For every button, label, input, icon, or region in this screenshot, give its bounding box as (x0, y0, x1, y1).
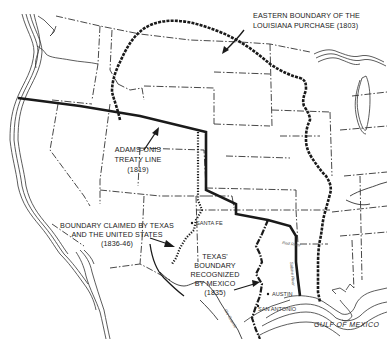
santa-fe-label: SANTA FE (196, 220, 223, 226)
rio-grande-label: Rio Grande (223, 308, 238, 330)
gulf-of-mexico-label: GULF OF MEXICO (314, 321, 379, 328)
adams-onis-label-line1: ADAMS-ONIS (115, 145, 162, 154)
austin-label: AUSTIN (272, 291, 293, 297)
state-boundaries (50, 16, 387, 290)
texas-claim-label-line1: BOUNDARY CLAIMED BY TEXAS (60, 221, 174, 230)
texas-mexico-label-line1: TEXAS' (202, 252, 228, 261)
louisiana-label-line2: LOUISIANA PURCHASE (1803) (253, 21, 358, 30)
baja-coast (76, 250, 110, 339)
adams-onis-label-line3: (1819) (127, 165, 148, 174)
texas-claim-label-line2: AND THE UNITED STATES (71, 230, 162, 239)
santa-fe-dot (191, 222, 193, 224)
red-river-label: Red River (282, 240, 302, 248)
san-antonio-label: SAN ANTONIO (258, 306, 297, 312)
adams-onis-label-line2: TREATY LINE (115, 155, 162, 164)
great-lakes (314, 50, 386, 134)
texas-claim-label-line3: (1836-46) (101, 239, 133, 248)
austin-dot (267, 293, 269, 295)
historical-boundary-map: EASTERN BOUNDARY OF THE LOUISIANA PURCHA… (0, 0, 387, 339)
texas-mexico-label-line5: (1835) (204, 288, 225, 297)
texas-mexico-label-line2: BOUNDARY (194, 261, 236, 270)
texas-us-claimed-boundary (172, 132, 202, 264)
sabine-river-label: Sabine River (289, 262, 296, 287)
adams-onis-treaty-line (18, 98, 300, 296)
texas-mexico-label-line4: BY MEXICO (195, 279, 236, 288)
texas-mexico-boundary (252, 220, 268, 339)
louisiana-label-line1: EASTERN BOUNDARY OF THE (253, 11, 360, 20)
texas-mexico-label-line3: RECOGNIZED (191, 270, 240, 279)
rivers-east (346, 182, 387, 205)
northwest-coast (37, 16, 98, 64)
